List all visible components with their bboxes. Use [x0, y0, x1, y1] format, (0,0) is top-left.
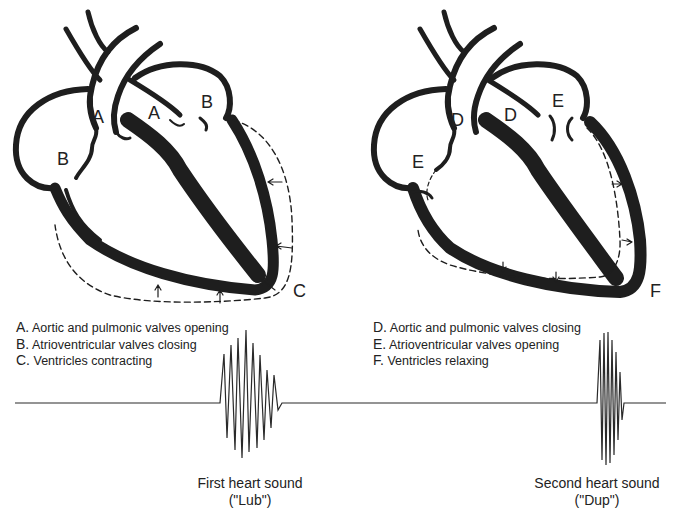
heart-sounds-diagram	[0, 0, 681, 522]
label-a-pulmonic: A	[92, 108, 104, 126]
label-b-mitral: B	[201, 93, 213, 111]
legend-diastole: D. Aortic and pulmonic valves closing E.…	[373, 320, 581, 370]
label-b-tricuspid: B	[57, 150, 69, 168]
label-d-aortic: D	[504, 106, 517, 124]
legend-item-e: E. Atrioventricular valves opening	[373, 337, 581, 354]
legend-item-c: C. Ventricles contracting	[16, 353, 229, 370]
caption-second-heart-sound: Second heart sound ("Dup")	[522, 475, 672, 509]
legend-item-d: D. Aortic and pulmonic valves closing	[373, 320, 581, 337]
legend-item-f: F. Ventricles relaxing	[373, 353, 581, 370]
legend-systole: A. Aortic and pulmonic valves opening B.…	[16, 320, 229, 370]
legend-item-b: B. Atrioventricular valves closing	[16, 337, 229, 354]
label-c-contracting: C	[293, 282, 306, 300]
label-e-tricuspid: E	[412, 153, 424, 171]
label-a-aortic: A	[148, 104, 160, 122]
legend-item-a: A. Aortic and pulmonic valves opening	[16, 320, 229, 337]
label-f-relaxing: F	[650, 282, 661, 300]
caption-first-heart-sound: First heart sound ("Lub")	[180, 475, 320, 509]
label-e-mitral: E	[552, 92, 564, 110]
label-d-pulmonic: D	[451, 111, 464, 129]
